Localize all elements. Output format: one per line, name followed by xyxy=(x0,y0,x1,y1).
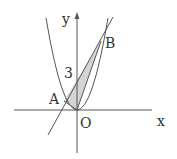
parabola-line-diagram: y x 3 A B O xyxy=(0,0,177,159)
x-axis-label: x xyxy=(157,114,165,128)
point-a-label: A xyxy=(49,92,59,106)
y-intercept-label: 3 xyxy=(64,66,73,80)
origin-label: O xyxy=(80,116,91,130)
point-b-label: B xyxy=(105,36,115,50)
y-axis-arrow-icon xyxy=(75,12,80,19)
y-axis-label: y xyxy=(62,12,70,26)
diagram-canvas xyxy=(0,0,177,159)
